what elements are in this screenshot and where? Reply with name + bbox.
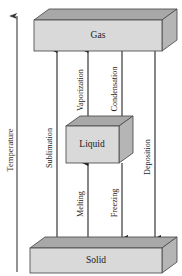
transition-freezing: Freezing — [110, 163, 122, 238]
transition-label-freezing: Freezing — [110, 189, 119, 218]
transition-condensation: Condensation — [110, 50, 122, 126]
transition-label-condensation: Condensation — [110, 66, 119, 111]
phase-label-liquid: Liquid — [79, 139, 105, 149]
solid-box-top-face — [30, 237, 177, 248]
transition-sublimation: Sublimation — [45, 50, 57, 238]
axis-label-temperature: Temperature — [5, 128, 15, 171]
gas-box-top-face — [34, 9, 177, 20]
transition-melting: Melting — [76, 163, 88, 238]
transition-label-sublimation: Sublimation — [45, 128, 54, 168]
transition-label-vaporization: Vaporization — [76, 69, 85, 111]
phase-box-solid: Solid — [30, 237, 177, 273]
phase-label-solid: Solid — [86, 255, 106, 265]
transition-label-melting: Melting — [76, 191, 85, 217]
phase-diagram-figure: Temperature Sublimation Vaporization Con… — [0, 0, 182, 276]
transition-deposition: Deposition — [143, 50, 155, 238]
temperature-axis: Temperature — [5, 16, 17, 272]
phase-box-gas: Gas — [34, 9, 177, 51]
transition-vaporization: Vaporization — [76, 50, 88, 126]
phase-diagram-canvas: Temperature Sublimation Vaporization Con… — [0, 0, 182, 276]
transition-label-deposition: Deposition — [143, 139, 152, 175]
phase-label-gas: Gas — [91, 30, 106, 40]
phase-box-liquid: Liquid — [66, 116, 133, 163]
